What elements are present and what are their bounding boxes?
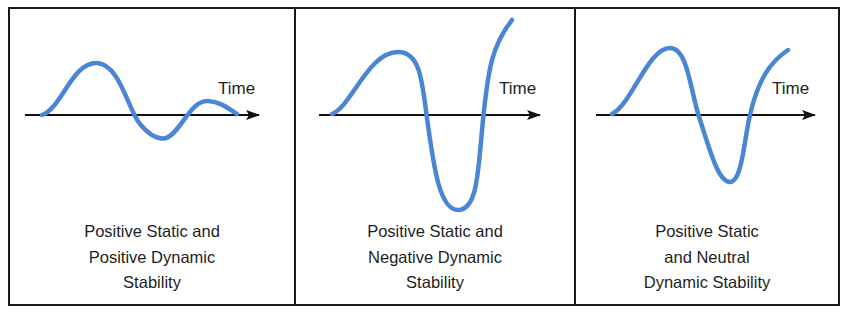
time-axis-label-3: Time xyxy=(772,79,809,99)
panel-1-caption: Positive Static and Positive Dynamic Sta… xyxy=(10,219,294,296)
caption-line: Positive Static xyxy=(576,219,838,245)
panel-2-caption: Positive Static and Negative Dynamic Sta… xyxy=(296,219,574,296)
caption-line: Stability xyxy=(296,270,574,296)
caption-line: Positive Static and xyxy=(10,219,294,245)
panel-3-plot xyxy=(596,48,815,182)
damped-oscillation-curve xyxy=(42,63,237,139)
panel-2-plot xyxy=(319,20,540,210)
panel-1-plot xyxy=(25,63,259,139)
caption-line: Stability xyxy=(10,270,294,296)
caption-line: Positive Dynamic xyxy=(10,245,294,271)
panel-3-caption: Positive Static and Neutral Dynamic Stab… xyxy=(576,219,838,296)
caption-line: Positive Static and xyxy=(296,219,574,245)
caption-line: Negative Dynamic xyxy=(296,245,574,271)
time-axis-label-1: Time xyxy=(218,79,255,99)
caption-line: and Neutral xyxy=(576,245,838,271)
caption-line: Dynamic Stability xyxy=(576,270,838,296)
time-axis-label-2: Time xyxy=(499,79,536,99)
